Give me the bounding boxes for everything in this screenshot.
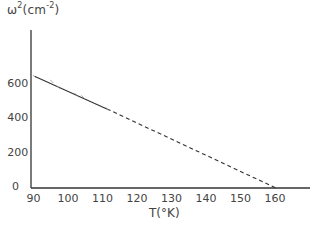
y-axis-title-unit-sup: -2 <box>46 1 54 10</box>
x-tick-label: 130 <box>161 192 182 205</box>
y-axis-title-close: ) <box>55 3 60 17</box>
x-tick-label: 110 <box>92 192 113 205</box>
y-axis-title-sup: 2 <box>17 1 22 10</box>
y-axis-title: ω2(cm-2) <box>7 2 59 17</box>
series <box>34 76 276 188</box>
data-point-marker <box>50 80 53 83</box>
x-tick-label: 100 <box>58 192 79 205</box>
x-tick-label: 140 <box>196 192 217 205</box>
y-tick-label: 400 <box>7 111 28 124</box>
x-tick-label: 120 <box>127 192 148 205</box>
y-tick-label: 200 <box>7 146 28 159</box>
y-axis-title-base: ω <box>7 3 17 17</box>
chart: ω2(cm-2) T(°K) 9010011012013014015016002… <box>0 0 318 228</box>
x-tick-label: 150 <box>230 192 251 205</box>
series-measured <box>34 76 106 109</box>
axes <box>31 30 310 188</box>
y-axis-title-unit: (cm <box>23 3 47 17</box>
x-tick-label: 160 <box>265 192 286 205</box>
series-extrapolation <box>107 109 276 188</box>
y-tick-label: 600 <box>7 77 28 90</box>
x-tick-label: 90 <box>26 192 40 205</box>
y-tick-label: 0 <box>12 180 19 193</box>
x-axis-title: T(°K) <box>149 206 180 220</box>
